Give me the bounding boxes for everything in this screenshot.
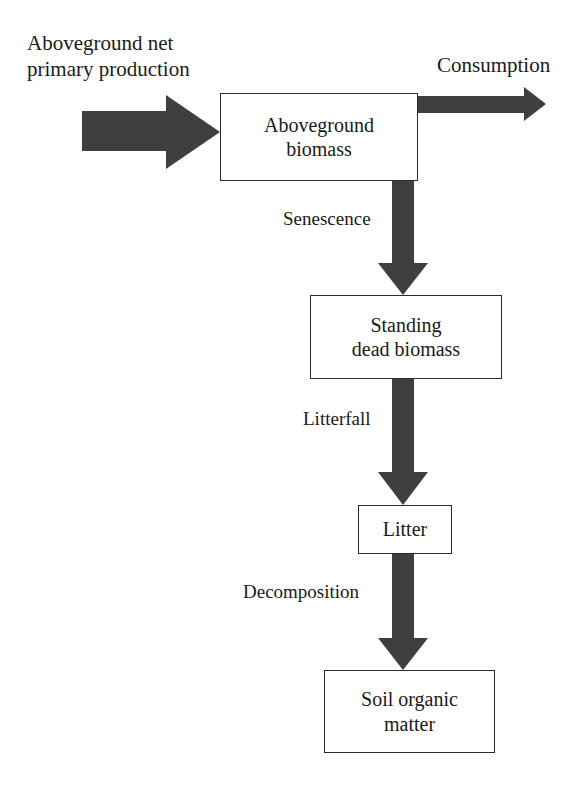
flow-label-senescence: Senescence xyxy=(283,208,371,230)
consumption-caption: Consumption xyxy=(437,52,550,78)
flow-label-decomposition: Decomposition xyxy=(243,581,359,603)
flow-label-litterfall: Litterfall xyxy=(303,408,371,430)
node-aboveground-biomass: Aboveground biomass xyxy=(220,93,418,181)
node-standing-dead-biomass-line1: Standing xyxy=(370,313,441,337)
anpp-source-line2: primary production xyxy=(27,57,190,81)
anpp-input-arrow xyxy=(82,95,220,169)
node-standing-dead-biomass-line2: dead biomass xyxy=(352,337,460,361)
node-litter-line1: Litter xyxy=(383,517,427,541)
anpp-source-line1: Aboveground net xyxy=(27,31,173,55)
node-litter: Litter xyxy=(358,505,452,554)
node-aboveground-biomass-line2: biomass xyxy=(286,137,352,161)
node-soil-organic-matter-line1: Soil organic xyxy=(361,687,458,711)
decomposition-arrow xyxy=(378,554,428,670)
node-soil-organic-matter-line2: matter xyxy=(384,712,435,736)
node-soil-organic-matter: Soil organic matter xyxy=(324,670,495,753)
node-aboveground-biomass-line1: Aboveground xyxy=(264,113,374,137)
anpp-source-caption: Aboveground net primary production xyxy=(27,30,190,83)
flow-diagram: Aboveground net primary production Consu… xyxy=(0,0,575,799)
node-standing-dead-biomass: Standing dead biomass xyxy=(310,295,502,379)
senescence-arrow xyxy=(378,181,428,295)
consumption-arrow xyxy=(418,87,546,121)
litterfall-arrow xyxy=(378,379,428,505)
